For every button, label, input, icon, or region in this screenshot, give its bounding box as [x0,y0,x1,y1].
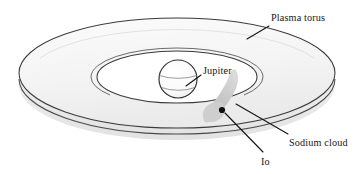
label-jupiter: Jupiter [203,65,232,76]
diagram-canvas: Plasma torus Jupiter Sodium cloud Io [0,0,361,174]
plasma-torus-diagram: Plasma torus Jupiter Sodium cloud Io [0,0,361,174]
label-plasma-torus: Plasma torus [271,12,325,23]
jupiter-body [159,60,197,98]
jupiter-sphere [159,60,197,98]
label-io: Io [261,156,270,167]
io-dot [219,107,225,113]
label-sodium-cloud: Sodium cloud [289,137,348,148]
